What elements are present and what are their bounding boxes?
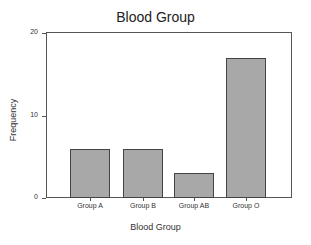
y-axis-label: Frequency <box>8 99 18 142</box>
x-tick <box>143 198 144 201</box>
y-tick-label: 0 <box>18 193 38 200</box>
x-tick <box>194 198 195 201</box>
bar-group-b <box>123 149 163 199</box>
x-tick-label: Group B <box>118 202 168 209</box>
chart-title: Blood Group <box>0 9 311 25</box>
x-tick <box>246 198 247 201</box>
x-tick-label: Group A <box>65 202 115 209</box>
x-axis-label: Blood Group <box>0 222 311 232</box>
x-tick <box>90 198 91 201</box>
x-tick-label: Group AB <box>169 202 219 209</box>
y-tick-label: 10 <box>18 111 38 118</box>
x-tick-label: Group O <box>221 202 271 209</box>
bar-group-ab <box>174 173 214 198</box>
bar-group-o <box>226 58 266 198</box>
y-tick <box>42 198 46 199</box>
y-tick-label: 20 <box>18 28 38 35</box>
bar-group-a <box>70 149 110 199</box>
